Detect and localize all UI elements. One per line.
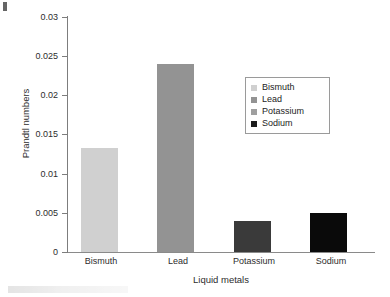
- legend-swatch-icon-sodium: [251, 121, 257, 127]
- legend-label-sodium: Sodium: [262, 118, 293, 129]
- legend-item-sodium: Sodium: [251, 118, 324, 129]
- bar-chart-figure: 0.03 0.025 0.02 0.015 0.01 0.005 0 Prand…: [0, 0, 390, 297]
- plot-area: [68, 17, 374, 252]
- x-tick-label-sodium: Sodium: [281, 256, 381, 267]
- scan-artifact-corner: [3, 2, 7, 11]
- scan-artifact-smudge: [8, 286, 128, 293]
- bar-potassium: [234, 221, 271, 252]
- legend-label-potassium: Potassium: [262, 106, 304, 117]
- legend-label-bismuth: Bismuth: [262, 82, 295, 93]
- bar-bismuth: [81, 148, 118, 252]
- legend: Bismuth Lead Potassium Sodium: [245, 77, 330, 134]
- y-tick-mark-0: [62, 252, 68, 253]
- y-tick-label-0.025: 0.025: [35, 51, 58, 61]
- legend-swatch-icon-potassium: [251, 109, 257, 115]
- y-axis-title: Prandtl numbers: [20, 69, 31, 179]
- x-axis-title: Liquid metals: [68, 274, 374, 285]
- legend-swatch-icon-lead: [251, 97, 257, 103]
- legend-item-bismuth: Bismuth: [251, 82, 324, 93]
- legend-swatch-icon-bismuth: [251, 85, 257, 91]
- legend-label-lead: Lead: [262, 94, 282, 105]
- legend-item-lead: Lead: [251, 94, 324, 105]
- y-tick-label-0.005: 0.005: [35, 208, 58, 218]
- y-tick-label-0.015: 0.015: [35, 129, 58, 139]
- legend-item-potassium: Potassium: [251, 106, 324, 117]
- bar-lead: [157, 64, 194, 252]
- bar-sodium: [310, 213, 347, 252]
- y-tick-label-0.01: 0.01: [40, 169, 58, 179]
- y-tick-label-0.03: 0.03: [40, 12, 58, 22]
- y-tick-label-0.02: 0.02: [40, 90, 58, 100]
- x-axis-line: [67, 252, 375, 253]
